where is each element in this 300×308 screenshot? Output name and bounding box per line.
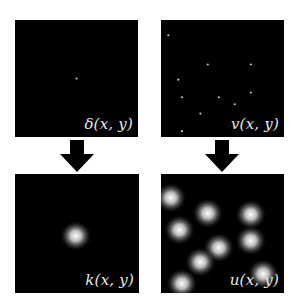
panel-v: v(x, y) (161, 20, 284, 137)
blur-blob (161, 182, 187, 213)
panel-u: u(x, y) (161, 174, 284, 293)
impulse-dot (218, 96, 220, 98)
down-arrow-icon (60, 140, 94, 172)
impulse-dot (177, 79, 179, 81)
blur-blob (163, 214, 195, 245)
label-v: v(x, y) (231, 115, 279, 133)
impulse-dot (181, 96, 183, 98)
impulse-dot (250, 63, 252, 65)
label-u: u(x, y) (230, 271, 279, 289)
impulse-dot (234, 103, 236, 105)
label-k: k(x, y) (85, 271, 134, 289)
impulse-dot (181, 130, 183, 132)
impulse-dot (250, 91, 252, 93)
impulse-dot (199, 113, 201, 115)
blur-blob (60, 220, 92, 251)
panel-delta: δ(x, y) (15, 20, 138, 137)
down-arrow-icon (205, 140, 239, 172)
impulse-dot (75, 77, 77, 79)
label-delta: δ(x, y) (84, 115, 133, 133)
impulse-dot (207, 63, 209, 65)
blur-blob (235, 225, 267, 256)
panel-k: k(x, y) (15, 174, 139, 293)
impulse-dot (167, 34, 169, 36)
blur-blob (192, 198, 224, 229)
